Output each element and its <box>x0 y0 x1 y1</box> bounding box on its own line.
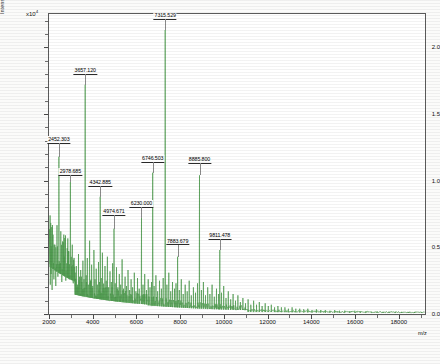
y-axis-minor-tick <box>45 194 48 195</box>
y-axis-tick-mark <box>44 314 48 315</box>
peak-leader-line <box>220 239 221 250</box>
x-axis-tick-mark <box>268 315 269 319</box>
y-axis-minor-tick <box>45 21 48 22</box>
x-axis-minor-tick <box>377 315 378 318</box>
y-axis-minor-tick <box>45 274 48 275</box>
y-axis-tick-mark <box>44 114 48 115</box>
x-axis-tick-label: 16000 <box>347 319 364 325</box>
y-axis-tick-mark <box>44 181 48 182</box>
y-axis-tick-label: 2.0 <box>394 44 440 50</box>
y-axis-minor-tick <box>45 301 48 302</box>
x-axis-tick-mark <box>49 315 50 319</box>
y-axis-minor-tick <box>45 61 48 62</box>
y-axis-minor-tick <box>45 234 48 235</box>
peak-leader-line <box>178 245 179 257</box>
y-axis-tick-label: 0.0 <box>394 311 440 317</box>
y-axis-minor-tick <box>45 34 48 35</box>
peak-leader-line <box>59 143 60 156</box>
peak-leader-line <box>100 186 101 197</box>
y-axis-minor-tick <box>45 261 48 262</box>
x-axis-tick-label: 18000 <box>390 319 407 325</box>
y-axis-title: Intens. [a.u.] <box>0 0 5 14</box>
y-axis-tick-mark <box>44 247 48 248</box>
x-axis-tick-mark <box>355 315 356 319</box>
x-axis-tick-label: 10000 <box>216 319 233 325</box>
spectrum-trace <box>49 14 425 314</box>
x-axis-tick-mark <box>93 315 94 319</box>
peak-leader-line <box>153 162 154 173</box>
y-axis-minor-tick <box>45 74 48 75</box>
x-axis-tick-mark <box>180 315 181 319</box>
x-axis-minor-tick <box>115 315 116 318</box>
x-axis-minor-tick <box>246 315 247 318</box>
peak-leader-line <box>200 163 201 175</box>
x-axis-tick-label: 14000 <box>303 319 320 325</box>
x-axis-minor-tick <box>333 315 334 318</box>
peak-leader-line <box>141 207 142 218</box>
peak-leader-line <box>165 19 166 30</box>
x-axis-tick-label: 2000 <box>42 319 55 325</box>
y-axis-minor-tick <box>45 154 48 155</box>
y-axis-exponent-base: x10 <box>26 11 36 17</box>
x-axis-title: m/z <box>418 330 427 336</box>
y-axis-minor-tick <box>45 287 48 288</box>
mass-spectrum-figure: Intens. [a.u.] x104 0.00.51.01.52.0 2000… <box>0 0 440 364</box>
y-axis-minor-tick <box>45 167 48 168</box>
y-axis-minor-tick <box>45 101 48 102</box>
y-axis-tick-label: 1.0 <box>394 178 440 184</box>
y-axis-tick-label: 1.5 <box>394 111 440 117</box>
peak-leader-line <box>85 74 86 85</box>
y-axis-minor-tick <box>45 87 48 88</box>
peak-leader-line <box>114 215 115 228</box>
x-axis-tick-label: 8000 <box>173 319 186 325</box>
x-axis-tick-label: 6000 <box>130 319 143 325</box>
peak-leader-line <box>70 175 71 182</box>
x-axis-tick-mark <box>399 315 400 319</box>
x-axis-tick-mark <box>311 315 312 319</box>
x-axis-minor-tick <box>421 315 422 318</box>
y-axis-minor-tick <box>45 221 48 222</box>
y-axis-minor-tick <box>45 127 48 128</box>
x-axis-minor-tick <box>158 315 159 318</box>
y-axis-exponent-power: 4 <box>36 9 38 14</box>
x-axis-minor-tick <box>71 315 72 318</box>
x-axis-tick-label: 4000 <box>86 319 99 325</box>
x-axis-tick-mark <box>224 315 225 319</box>
x-axis-tick-label: 12000 <box>259 319 276 325</box>
x-axis-minor-tick <box>289 315 290 318</box>
x-axis-minor-tick <box>202 315 203 318</box>
y-axis-minor-tick <box>45 207 48 208</box>
y-axis-tick-label: 0.5 <box>394 244 440 250</box>
y-axis-tick-mark <box>44 47 48 48</box>
y-axis-exponent: x104 <box>26 9 38 17</box>
x-axis-tick-mark <box>136 315 137 319</box>
